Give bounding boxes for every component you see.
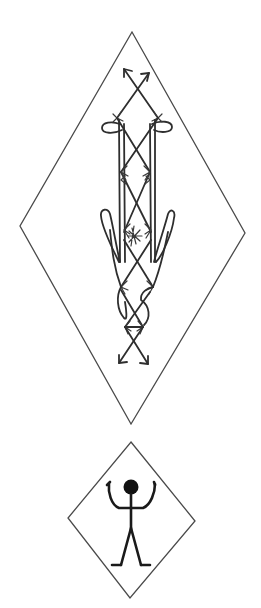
arrowhead-right-icon [143, 166, 150, 180]
bottom-left-arrow-shaft [119, 327, 143, 363]
inverted-arrow-figure [101, 69, 174, 364]
stick-figure-head [124, 480, 139, 495]
body-cross-line [121, 118, 158, 172]
stick-figure-legs [121, 528, 141, 565]
left-outer-leg-line [119, 120, 120, 262]
right-arm-loop [154, 211, 174, 262]
starburst-icon [128, 226, 142, 246]
head-loop-right [141, 287, 153, 325]
head-cross-line [121, 290, 143, 327]
stick-figure [107, 480, 155, 566]
large-diamond [20, 32, 245, 424]
body-cross-line [117, 118, 150, 172]
diagram-canvas [0, 0, 261, 608]
top-right-arrow-shaft [117, 73, 149, 118]
small-diamond [68, 442, 195, 598]
top-left-arrow-shaft [124, 69, 158, 118]
bottom-right-arrow-shaft [125, 327, 148, 364]
lower-cross-line [124, 240, 153, 287]
